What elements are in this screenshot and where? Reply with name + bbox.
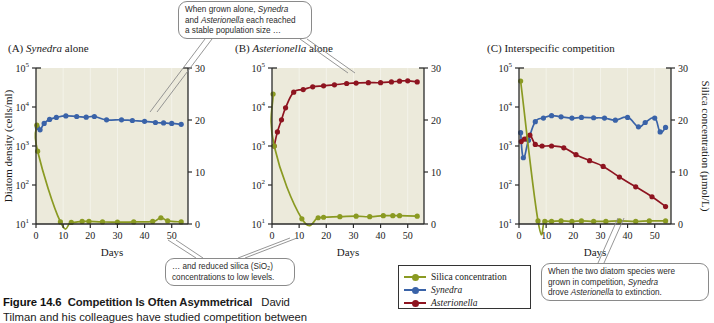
- y-tick-label-right: 10: [678, 167, 688, 178]
- data-point: [179, 122, 184, 127]
- data-point: [573, 152, 578, 157]
- x-tick-label: 50: [650, 230, 660, 241]
- data-point: [80, 219, 85, 224]
- data-point: [652, 115, 657, 120]
- legend-label-asterionella: Asterionella: [431, 298, 477, 308]
- data-point: [397, 79, 402, 84]
- legend-label-silica: Silica concentration: [431, 272, 507, 282]
- data-point: [415, 79, 420, 84]
- figure-caption-title: Competition Is Often Asymmetrical: [68, 296, 253, 308]
- callout-bottom-right: When the two diatom species were grown i…: [541, 263, 709, 301]
- data-point: [647, 218, 652, 223]
- data-point: [591, 115, 596, 120]
- data-point: [34, 123, 39, 128]
- data-point: [130, 118, 135, 123]
- data-point: [275, 129, 280, 134]
- data-point: [663, 204, 668, 209]
- x-tick-label: 40: [623, 230, 633, 241]
- callout-top-line1i: Synedra: [258, 5, 289, 14]
- data-point: [299, 216, 304, 221]
- callout-bl-leader-a2: [176, 240, 203, 258]
- x-tick-label: 20: [85, 230, 95, 241]
- callout-top-leader-b2: [300, 39, 348, 73]
- data-point: [142, 119, 147, 124]
- data-point: [367, 214, 372, 219]
- data-point: [602, 115, 607, 120]
- data-point: [527, 133, 532, 138]
- y-tick-label-left: 104: [499, 100, 513, 112]
- y-tick-label-right: 30: [195, 63, 205, 74]
- data-point: [104, 117, 109, 122]
- data-point: [591, 219, 596, 224]
- data-point: [381, 213, 386, 218]
- x-tick-label: 0: [270, 230, 275, 241]
- callout-br-line3i: Asterionella: [571, 288, 614, 297]
- legend-item-synedra: Synedra: [404, 283, 523, 296]
- y-tick-label-left: 101: [499, 217, 513, 229]
- callout-br-line3a: drove: [548, 288, 571, 297]
- data-point: [337, 214, 342, 219]
- data-point: [521, 155, 526, 160]
- x-tick-label: 40: [376, 230, 386, 241]
- y-tick-label-left: 103: [252, 139, 266, 151]
- data-point: [633, 184, 638, 189]
- data-point: [390, 213, 395, 218]
- data-point: [542, 219, 547, 224]
- data-point: [579, 218, 584, 223]
- data-point: [354, 81, 359, 86]
- data-point: [37, 127, 42, 132]
- x-tick-label: 10: [294, 230, 304, 241]
- data-point: [354, 214, 359, 219]
- data-point: [47, 117, 52, 122]
- data-point: [119, 117, 124, 122]
- y-tick-label-left: 104: [16, 100, 30, 112]
- data-point: [321, 83, 326, 88]
- data-point: [291, 90, 296, 95]
- callout-top-line1a: When grown alone,: [185, 5, 258, 14]
- y-tick-label-left: 102: [499, 178, 513, 190]
- data-point: [316, 215, 321, 220]
- callout-top-line3: a stable population size …: [185, 26, 281, 35]
- data-point: [561, 145, 566, 150]
- callout-br-leader-2: [604, 218, 624, 263]
- data-point: [158, 215, 163, 220]
- y-axis-title-right: Silica concentration (µmol/L): [699, 81, 712, 212]
- data-point: [633, 219, 638, 224]
- data-point: [54, 115, 59, 120]
- data-point: [558, 114, 563, 119]
- y-tick-label-right: 20: [431, 115, 441, 126]
- y-tick-label-right: 0: [195, 219, 200, 230]
- data-point: [397, 213, 402, 218]
- data-point: [535, 218, 540, 223]
- data-point: [617, 174, 622, 179]
- callout-br-line3b: to extinction.: [614, 288, 662, 297]
- data-point: [161, 120, 166, 125]
- x-tick-label: 30: [112, 230, 122, 241]
- callout-bl-leader-a: [168, 240, 196, 258]
- y-tick-label-right: 10: [195, 167, 205, 178]
- data-point: [153, 120, 158, 125]
- panel-a-plot: 101102103104105010203001020304050Days: [16, 61, 206, 258]
- figure-caption-author: David: [261, 296, 289, 308]
- data-point: [649, 194, 654, 199]
- figure-caption-line1: Figure 14.6 Competition Is Often Asymmet…: [3, 296, 423, 308]
- x-tick-label: 30: [348, 230, 358, 241]
- y-tick-label-left: 101: [252, 217, 266, 229]
- data-point: [63, 113, 68, 118]
- data-point: [625, 115, 630, 120]
- y-tick-label-left: 103: [16, 139, 30, 151]
- data-point: [569, 219, 574, 224]
- y-tick-label-left: 102: [16, 178, 30, 190]
- data-point: [279, 117, 284, 122]
- y-tick-label-left: 102: [252, 178, 266, 190]
- callout-bl-line1: … and reduced silica (SiO₂): [172, 262, 273, 271]
- y-tick-label-right: 10: [431, 167, 441, 178]
- data-point: [522, 137, 527, 142]
- callout-br-line1: When the two diatom species were: [548, 267, 675, 276]
- data-point: [283, 105, 288, 110]
- data-point: [74, 114, 79, 119]
- figure-caption-label: Figure 14.6: [3, 296, 62, 308]
- x-tick-label: 0: [517, 230, 522, 241]
- y-axis-title-left: Diatom density (cells/ml): [2, 89, 15, 202]
